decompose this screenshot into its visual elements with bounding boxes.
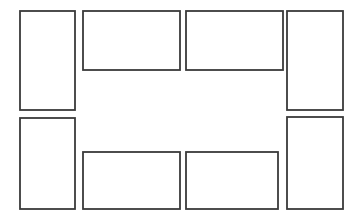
rect-top-right-tall xyxy=(287,11,343,110)
rect-bottom-left-tall xyxy=(20,118,75,209)
rect-top-middle-left-wide xyxy=(83,11,180,70)
rect-bottom-right-tall xyxy=(287,117,343,209)
rectangle-layout-diagram xyxy=(0,0,362,223)
rect-bottom-middle-left-wide xyxy=(83,152,180,209)
rect-bottom-middle-right-wide xyxy=(186,152,278,209)
diagram-canvas xyxy=(0,0,362,223)
rect-top-left-tall xyxy=(20,11,75,110)
rect-top-middle-right-wide xyxy=(186,11,283,70)
